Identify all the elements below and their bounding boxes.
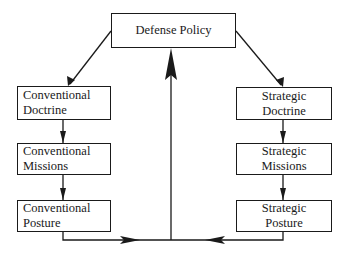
edge-strat-posture-to-junction xyxy=(171,232,283,240)
node-label-line1: Strategic xyxy=(262,144,306,159)
node-label-line2: Missions xyxy=(261,159,306,174)
node-label: Defense Policy xyxy=(135,23,211,38)
edge-conv-posture-to-junction xyxy=(63,232,171,240)
node-strategic-missions: Strategic Missions xyxy=(236,143,332,175)
node-label-line1: Strategic xyxy=(262,201,306,216)
node-defense-policy: Defense Policy xyxy=(111,13,236,48)
node-label-line2: Missions xyxy=(23,159,68,174)
arrowhead-icon xyxy=(60,131,66,143)
node-label-line2: Posture xyxy=(23,216,61,231)
edge-policy-to-strat-doctrine xyxy=(236,31,281,85)
node-label-line2: Posture xyxy=(265,216,303,231)
node-label-line1: Conventional xyxy=(23,144,90,159)
node-strategic-doctrine: Strategic Doctrine xyxy=(236,87,332,120)
node-label-line1: Conventional xyxy=(23,88,90,103)
node-label-line2: Doctrine xyxy=(262,104,306,119)
node-conventional-missions: Conventional Missions xyxy=(17,143,111,175)
arrowhead-icon xyxy=(280,131,286,143)
node-strategic-posture: Strategic Posture xyxy=(236,200,332,232)
node-label-line2: Doctrine xyxy=(23,103,67,118)
arrowhead-icon xyxy=(67,76,75,86)
arrowhead-icon xyxy=(60,188,66,200)
node-conventional-posture: Conventional Posture xyxy=(17,200,111,232)
node-label-line1: Strategic xyxy=(262,89,306,104)
arrowhead-icon xyxy=(280,188,286,200)
node-conventional-doctrine: Conventional Doctrine xyxy=(17,86,111,120)
node-label-line1: Conventional xyxy=(23,201,90,216)
arrowhead-icon xyxy=(276,77,284,87)
edge-policy-to-conv-doctrine xyxy=(70,31,111,84)
